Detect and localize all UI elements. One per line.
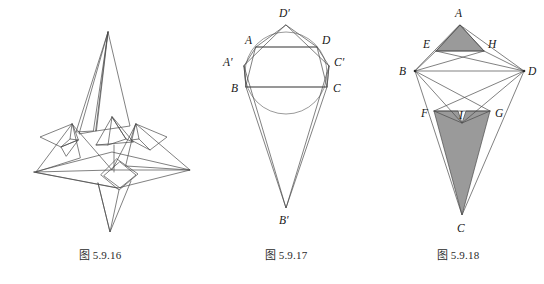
label-B: B	[399, 65, 406, 77]
figure-5-9-17: D′ A D A′ C′ B C B′ 图 5.9.17	[200, 0, 372, 284]
origami-star-drawing	[0, 0, 200, 240]
label-D-prime: D′	[278, 7, 290, 19]
segment-D-I	[462, 71, 524, 123]
left-flap-crease-2	[61, 139, 70, 147]
upper-spike-left-facet-2	[79, 32, 108, 134]
vertex-dot-B	[414, 70, 417, 73]
left-flap-outer	[40, 124, 78, 147]
label-C: C	[333, 82, 341, 94]
label-D: D	[527, 65, 537, 77]
right-flap-crease-2	[139, 139, 150, 150]
label-C: C	[457, 222, 465, 234]
figure-5-9-18-caption: 图 5.9.18	[372, 246, 544, 262]
lower-left-wing	[36, 124, 80, 172]
figures-row: 图 5.9.16	[0, 0, 544, 284]
shaded-region-FGC	[434, 111, 490, 215]
center-pyramid-base-crease	[108, 139, 126, 145]
figure-5-9-17-caption: 图 5.9.17	[200, 246, 372, 262]
figure-5-9-18: A E H B D F I G C 图 5.9.18	[372, 0, 544, 284]
label-B: B	[231, 82, 238, 94]
figure-5-9-16: 图 5.9.16	[0, 0, 200, 284]
edges-A-D'-D	[256, 25, 317, 47]
shaded-triangle-AEH	[436, 25, 484, 51]
bottom-spike	[98, 181, 131, 232]
label-H: H	[487, 38, 497, 50]
segment-D-H	[484, 51, 524, 71]
label-B-prime: B′	[279, 214, 289, 226]
circle-kite-drawing: D′ A D A′ C′ B C B′	[200, 0, 372, 240]
label-D: D	[321, 34, 331, 46]
circumscribed-circle	[245, 32, 327, 114]
label-F: F	[420, 107, 429, 119]
left-flap-tip	[61, 140, 78, 156]
label-A-prime: A′	[222, 56, 233, 68]
label-A: A	[244, 34, 253, 46]
lower-right-wing	[126, 124, 190, 170]
figure-5-9-17-canvas: D′ A D A′ C′ B C B′	[200, 0, 372, 240]
upper-spike-left-facet	[76, 32, 108, 132]
vertex-dot-D	[523, 70, 526, 73]
bottom-spike-crease	[98, 183, 119, 232]
label-E: E	[422, 38, 430, 50]
shaded-kite-drawing: A E H B D F I G C	[372, 0, 544, 240]
figure-5-9-18-canvas: A E H B D F I G C	[372, 0, 544, 240]
figure-5-9-16-canvas	[0, 0, 200, 240]
label-C-prime: C′	[334, 56, 345, 68]
outer-kite-A'B'C'D'	[244, 25, 329, 208]
inner-quad-ABCD	[246, 47, 327, 87]
label-A: A	[454, 7, 463, 19]
label-G: G	[495, 107, 504, 119]
upper-spike-right-facet	[96, 32, 130, 131]
figure-5-9-16-caption: 图 5.9.16	[0, 246, 200, 262]
